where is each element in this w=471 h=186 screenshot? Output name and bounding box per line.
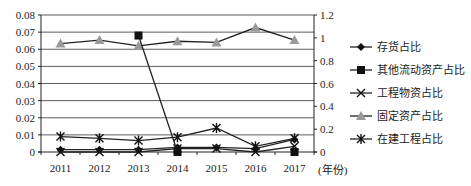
x-tick-label: 2012 xyxy=(89,162,111,174)
square-marker xyxy=(291,148,299,156)
right-axis-tick-labels: 00.20.40.60.811.2 xyxy=(320,9,334,158)
legend-item: 在建工程占比 xyxy=(350,132,443,146)
legend-item: 固定资产占比 xyxy=(350,109,443,123)
x-tick-label: 2015 xyxy=(206,162,229,174)
legend-item: 其他流动资产占比 xyxy=(350,63,465,77)
legend: 存货占比其他流动资产占比工程物资占比固定资产占比在建工程占比 xyxy=(350,40,465,146)
left-tick-label: 0.06 xyxy=(16,43,36,55)
series-lines xyxy=(56,23,300,156)
square-marker xyxy=(135,32,143,40)
triangle-marker xyxy=(95,35,105,44)
left-tick-label: 0.02 xyxy=(16,112,35,124)
left-tick-label: 0.04 xyxy=(16,78,36,90)
line-chart: 00.010.020.030.040.050.060.070.08 00.20.… xyxy=(0,0,471,186)
x-tick-label: 2013 xyxy=(128,162,151,174)
left-tick-label: 0.03 xyxy=(16,95,36,107)
square-marker xyxy=(174,148,182,156)
legend-item: 工程物资占比 xyxy=(350,86,443,100)
x-axis-tick-labels: 2011201220132014201520162017 xyxy=(50,162,306,174)
left-axis-tick-labels: 00.010.020.030.040.050.060.070.08 xyxy=(16,9,36,158)
diamond-marker xyxy=(357,43,365,51)
series-1 xyxy=(135,32,299,156)
square-marker xyxy=(357,66,365,74)
right-tick-label: 0.6 xyxy=(320,78,334,90)
right-tick-label: 0.2 xyxy=(320,123,334,135)
legend-label: 其他流动资产占比 xyxy=(377,63,465,77)
x-tick-label: 2017 xyxy=(284,162,307,174)
x-tick-label: 2014 xyxy=(167,162,190,174)
left-tick-label: 0.01 xyxy=(16,129,35,141)
right-tick-label: 0.4 xyxy=(320,100,334,112)
legend-item: 存货占比 xyxy=(350,40,421,54)
right-tick-label: 0.8 xyxy=(320,55,334,67)
series-3 xyxy=(56,23,300,50)
x-axis-label: (年份) xyxy=(318,163,348,177)
left-tick-label: 0.07 xyxy=(16,26,36,38)
legend-label: 工程物资占比 xyxy=(377,86,443,100)
right-tick-label: 1.2 xyxy=(320,9,334,21)
triangle-marker xyxy=(251,23,261,32)
right-tick-label: 0 xyxy=(320,146,326,158)
diamond-marker xyxy=(291,135,299,143)
legend-label: 存货占比 xyxy=(377,40,421,54)
right-tick-label: 1 xyxy=(320,32,326,44)
legend-label: 固定资产占比 xyxy=(377,109,443,123)
left-tick-label: 0.08 xyxy=(16,9,36,21)
x-tick-label: 2016 xyxy=(245,162,268,174)
diamond-marker xyxy=(213,143,221,151)
x-tick-label: 2011 xyxy=(50,162,72,174)
left-tick-label: 0.05 xyxy=(16,60,36,72)
legend-label: 在建工程占比 xyxy=(377,132,443,146)
left-tick-label: 0 xyxy=(30,146,36,158)
